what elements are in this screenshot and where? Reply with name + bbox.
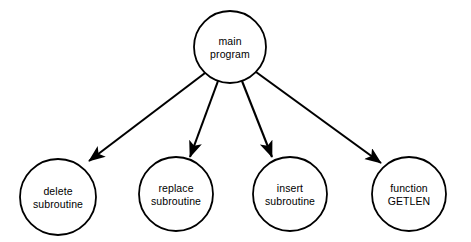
node-circle-group [20,11,446,235]
node-insert-subroutine-circle[interactable] [253,157,327,231]
edge-main-to-insert-arrow [242,81,272,157]
node-replace-subroutine-circle[interactable] [139,157,213,231]
node-main-program-circle[interactable] [194,11,266,83]
edge-group [89,72,381,163]
diagram-canvas: main program delete subroutine replace s… [0,0,471,242]
edge-main-to-replace-arrow [190,81,218,157]
node-function-getlen-circle[interactable] [372,157,446,231]
node-delete-subroutine-circle[interactable] [20,159,96,235]
diagram-graphics [0,0,471,242]
edge-main-to-getlen-arrow [256,72,381,163]
edge-main-to-delete-arrow [89,73,205,161]
